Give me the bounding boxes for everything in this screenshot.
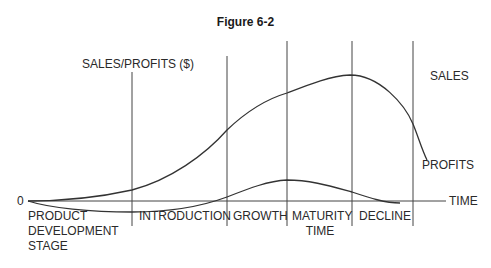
sales-curve-label: SALES — [430, 69, 469, 83]
stage-label-maturity: MATURITY TIME — [292, 209, 348, 239]
stage-label-growth: GROWTH — [233, 209, 288, 223]
stage-label-product-development: PRODUCT DEVELOPMENT STAGE — [28, 209, 119, 254]
x-axis-label: TIME — [449, 194, 478, 208]
origin-label: 0 — [17, 194, 24, 208]
y-axis-label: SALES/PROFITS ($) — [82, 57, 194, 71]
stage-label-decline: DECLINE — [359, 209, 411, 223]
stage-label-introduction: INTRODUCTION — [139, 209, 231, 223]
profits-curve — [28, 180, 400, 212]
profits-curve-label: PROFITS — [422, 158, 474, 172]
